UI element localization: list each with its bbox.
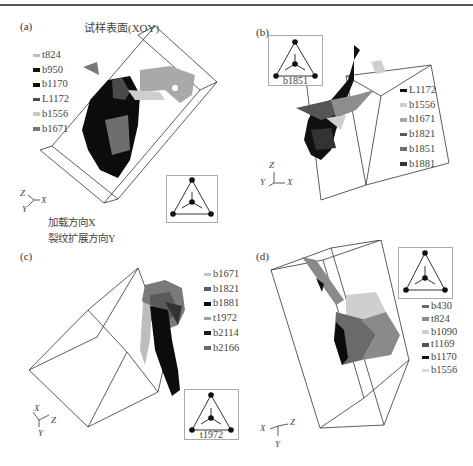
axis-z-label: Z: [269, 160, 274, 170]
legend-item: b1170: [33, 77, 69, 92]
legend-item: L1172: [33, 92, 69, 107]
legend-item: b1881: [204, 296, 239, 311]
legend-item: b2114: [204, 326, 239, 341]
panel-d: (d) b430 t824 b1090 t1169 b1170 b1556 X …: [236, 240, 472, 465]
legend: b430 t824 b1090 t1169 b1170 b1556: [422, 300, 457, 377]
panel-c: (c) b1671 b1821 b1881 t1972 b2114 b2166 …: [0, 240, 236, 465]
inset-caption: b1851: [269, 75, 322, 86]
legend-item: b1821: [400, 127, 436, 142]
legend-item: b1556: [400, 98, 436, 113]
legend-swatch: [400, 162, 407, 166]
legend-swatch: [204, 331, 211, 335]
loading-direction-note: 加载方向X: [48, 214, 96, 229]
legend-swatch: [33, 112, 40, 116]
legend: L1172 b1556 b1671 b1821 b1851 b1881: [400, 83, 436, 171]
legend-item: b1671: [204, 267, 239, 282]
axis-y-label: Y: [22, 204, 27, 214]
legend: b1671 b1821 b1881 t1972 b2114 b2166: [204, 267, 239, 355]
legend-swatch: [33, 68, 40, 72]
legend-swatch: [204, 346, 211, 350]
legend-swatch: [33, 98, 40, 102]
panel-label: (a): [20, 20, 32, 32]
legend-swatch: [400, 103, 407, 107]
legend-item: b1881: [400, 157, 436, 172]
legend-item: b1170: [422, 351, 457, 364]
tetrahedron-inset: [398, 247, 453, 299]
panel-b: (b) b1851 L1172 b1556 b1671 b1821 b1851 …: [236, 0, 472, 225]
panel-a: (a) 试样表面(XOY) t824 b950 b1170 L1172 b155…: [0, 0, 236, 225]
axis-x-label: X: [41, 195, 47, 205]
legend-item: t824: [422, 313, 457, 326]
tetrahedron-inset: t1972: [184, 389, 239, 440]
legend-swatch: [422, 343, 429, 347]
legend-item: b1090: [422, 326, 457, 339]
inset-caption: t1972: [185, 429, 238, 440]
surface-label: 试样表面(XOY): [84, 19, 159, 35]
panel-label: (d): [256, 250, 269, 262]
legend-swatch: [204, 302, 211, 306]
legend-swatch: [422, 369, 429, 373]
legend-swatch: [33, 127, 40, 131]
legend-item: t1169: [422, 338, 457, 351]
legend-swatch: [204, 287, 211, 291]
legend-item: b1671: [33, 122, 69, 137]
legend-swatch: [400, 118, 407, 122]
legend-swatch: [422, 317, 429, 321]
tetrahedron-icon: [167, 176, 217, 222]
axis-z-label: Z: [51, 415, 56, 425]
legend-item: b1821: [204, 282, 239, 297]
tetrahedron-icon: [399, 248, 452, 298]
legend-item: L1172: [400, 83, 436, 98]
legend: t824 b950 b1170 L1172 b1556 b1671: [33, 48, 69, 136]
axis-y-label: Y: [38, 428, 43, 438]
legend-swatch: [33, 83, 40, 87]
legend-swatch: [422, 330, 429, 334]
axis-x-label: X: [34, 403, 40, 413]
legend-item: b1556: [422, 364, 457, 377]
axis-z-label: Z: [290, 417, 295, 427]
legend-item: b1671: [400, 112, 436, 127]
tetrahedron-inset: b1851: [268, 35, 323, 86]
axis-y-label: Y: [275, 439, 280, 449]
legend-item: t824: [33, 48, 69, 63]
axis-z-label: Z: [20, 188, 25, 198]
legend-swatch: [33, 54, 40, 58]
axis-x-label: X: [260, 423, 266, 433]
legend-item: b1851: [400, 142, 436, 157]
legend-swatch: [400, 147, 407, 151]
axis-x-label: X: [287, 177, 293, 187]
panel-label: (b): [256, 26, 269, 38]
legend-item: t1972: [204, 311, 239, 326]
tetrahedron-inset: [166, 175, 218, 223]
legend-swatch: [204, 273, 211, 277]
legend-item: b950: [33, 63, 69, 78]
legend-swatch: [422, 305, 429, 309]
axis-y-label: Y: [260, 177, 265, 187]
legend-swatch: [400, 89, 407, 93]
legend-item: b430: [422, 300, 457, 313]
legend-swatch: [422, 356, 429, 360]
legend-swatch: [204, 317, 211, 321]
legend-item: b1556: [33, 107, 69, 122]
crack-3d-render-b: [236, 0, 473, 225]
panel-label: (c): [20, 250, 32, 262]
legend-swatch: [400, 133, 407, 137]
legend-item: b2166: [204, 341, 239, 356]
